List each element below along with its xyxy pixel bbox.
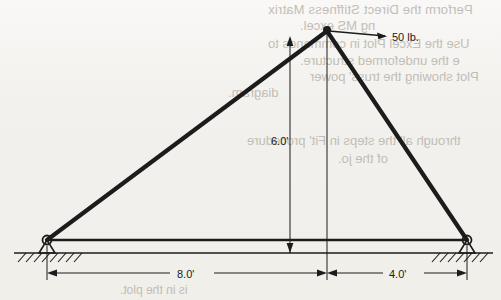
scanned-page: Perform the Direct Stiffness Matrix ng M… — [0, 0, 501, 300]
ground-hatch-left — [18, 253, 82, 262]
apex-joint-node — [323, 26, 331, 34]
right-diagonal-member — [327, 31, 467, 240]
load-label: 50 lb. — [392, 31, 419, 43]
height-label: 6.0' — [271, 135, 288, 147]
span-right-label: 4.0' — [389, 268, 406, 280]
ground-hatch-right — [432, 253, 488, 262]
span-left-label: 8.0' — [177, 268, 194, 280]
truss-diagram — [0, 0, 501, 300]
applied-load-arrow — [329, 31, 387, 39]
